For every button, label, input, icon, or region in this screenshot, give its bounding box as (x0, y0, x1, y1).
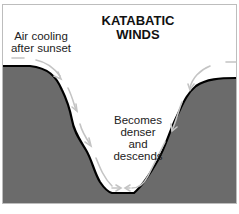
title-line-1: KATABATIC (98, 14, 178, 28)
denser-label-line-4: descends (108, 150, 168, 162)
denser-descends-label: Becomes denser and descends (108, 114, 168, 162)
air-cooling-label: Air cooling after sunset (8, 30, 74, 54)
katabatic-winds-diagram: KATABATIC WINDS Air cooling after sunset… (0, 0, 239, 214)
air-cooling-label-line-1: Air cooling (8, 30, 74, 42)
title-line-2: WINDS (98, 28, 178, 42)
denser-label-line-1: Becomes (108, 114, 168, 126)
denser-label-line-2: denser (108, 126, 168, 138)
denser-label-line-3: and (108, 138, 168, 150)
air-cooling-label-line-2: after sunset (8, 42, 74, 54)
diagram-title: KATABATIC WINDS (98, 14, 178, 42)
